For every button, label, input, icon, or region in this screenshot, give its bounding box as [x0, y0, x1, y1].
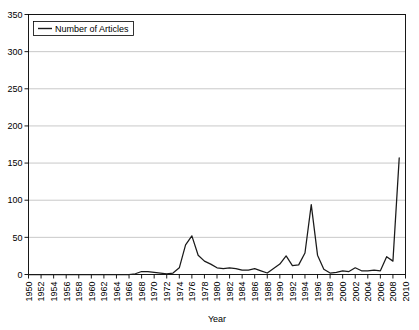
x-tick-label-1980: 1980 — [212, 282, 222, 302]
x-tick-label-1956: 1956 — [62, 282, 72, 302]
x-tick-label-1986: 1986 — [250, 282, 260, 302]
x-tick-label-1974: 1974 — [175, 282, 185, 302]
y-tick-label-200: 200 — [7, 121, 22, 131]
line-chart: 050100150200250300350 195019521954195619… — [0, 0, 419, 330]
x-tick-label-2010: 2010 — [401, 282, 411, 302]
x-tick-label-1966: 1966 — [124, 282, 134, 302]
x-tick-label-1960: 1960 — [87, 282, 97, 302]
y-tick-label-150: 150 — [7, 158, 22, 168]
x-tick-label-1978: 1978 — [200, 282, 210, 302]
x-tick-label-1964: 1964 — [112, 282, 122, 302]
x-tick-label-2006: 2006 — [376, 282, 386, 302]
x-tick-label-1982: 1982 — [225, 282, 235, 302]
x-tick-label-2000: 2000 — [338, 282, 348, 302]
chart-container: 050100150200250300350 195019521954195619… — [0, 0, 419, 330]
x-tick-label-1968: 1968 — [137, 282, 147, 302]
x-tick-label-1958: 1958 — [74, 282, 84, 302]
y-tick-label-250: 250 — [7, 84, 22, 94]
x-tick-label-2004: 2004 — [363, 282, 373, 302]
legend-label-number-of-articles: Number of Articles — [55, 24, 129, 34]
chart-background — [0, 0, 419, 330]
x-tick-label-1952: 1952 — [36, 282, 46, 302]
y-tick-label-0: 0 — [17, 270, 22, 280]
x-tick-label-1976: 1976 — [187, 282, 197, 302]
y-tick-label-50: 50 — [12, 233, 22, 243]
x-axis-title: Year — [208, 314, 226, 324]
x-tick-label-2002: 2002 — [351, 282, 361, 302]
y-tick-label-300: 300 — [7, 47, 22, 57]
x-tick-label-1970: 1970 — [149, 282, 159, 302]
y-tick-label-350: 350 — [7, 10, 22, 20]
x-tick-label-1990: 1990 — [275, 282, 285, 302]
x-tick-label-1972: 1972 — [162, 282, 172, 302]
x-tick-label-2008: 2008 — [388, 282, 398, 302]
x-tick-label-1950: 1950 — [24, 282, 34, 302]
x-tick-label-1988: 1988 — [263, 282, 273, 302]
x-tick-label-1954: 1954 — [49, 282, 59, 302]
legend: Number of Articles — [34, 22, 134, 36]
x-tick-label-1984: 1984 — [237, 282, 247, 302]
y-tick-label-100: 100 — [7, 195, 22, 205]
x-tick-label-1998: 1998 — [325, 282, 335, 302]
x-tick-label-1962: 1962 — [99, 282, 109, 302]
x-tick-label-1994: 1994 — [300, 282, 310, 302]
x-tick-label-1992: 1992 — [288, 282, 298, 302]
x-tick-label-1996: 1996 — [313, 282, 323, 302]
